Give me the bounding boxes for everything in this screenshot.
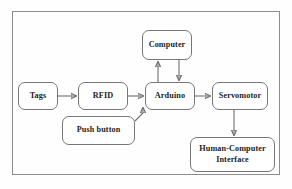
node-servomotor-label: Servomotor <box>219 91 261 101</box>
node-tags-label: Tags <box>30 91 46 101</box>
node-tags[interactable]: Tags <box>18 82 58 110</box>
node-computer-label: Computer <box>149 40 186 50</box>
node-rfid[interactable]: RFID <box>78 82 128 110</box>
diagram-canvas: Tags RFID Arduino Servomotor Computer Pu… <box>0 0 292 189</box>
node-push-button-label: Push button <box>77 125 121 135</box>
node-arduino[interactable]: Arduino <box>145 82 195 110</box>
node-servomotor[interactable]: Servomotor <box>212 82 268 110</box>
node-arduino-label: Arduino <box>155 91 185 101</box>
node-rfid-label: RFID <box>93 91 113 101</box>
node-human-computer-interface[interactable]: Human-Computer Interface <box>190 137 275 172</box>
node-computer[interactable]: Computer <box>142 30 192 60</box>
node-human-computer-interface-label: Human-Computer Interface <box>199 144 265 165</box>
node-push-button[interactable]: Push button <box>62 116 135 145</box>
